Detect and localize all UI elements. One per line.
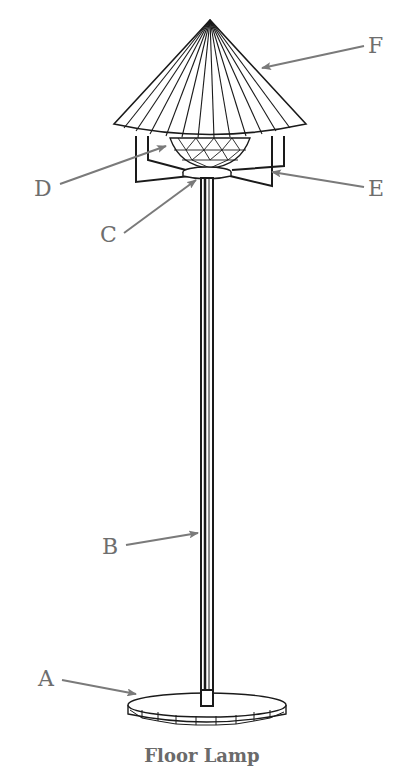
lamp-base <box>128 690 286 725</box>
lamp-bowl <box>170 138 250 168</box>
diagram-caption: Floor Lamp <box>0 745 404 766</box>
floor-lamp-diagram: A B C D E F Floor Lamp <box>0 0 404 776</box>
arrow-b <box>126 533 198 545</box>
label-a: A <box>38 668 54 690</box>
label-f: F <box>368 35 383 57</box>
label-e: E <box>368 178 384 200</box>
arrow-f <box>262 46 364 68</box>
lamp-shade <box>114 20 306 138</box>
label-d: D <box>34 178 52 200</box>
arrow-c <box>124 180 196 233</box>
label-c: C <box>100 224 117 246</box>
arrow-a <box>62 680 136 694</box>
lamp-pole <box>201 178 213 706</box>
arrow-d <box>60 146 166 184</box>
arrow-e <box>272 172 364 187</box>
label-b: B <box>102 536 118 558</box>
